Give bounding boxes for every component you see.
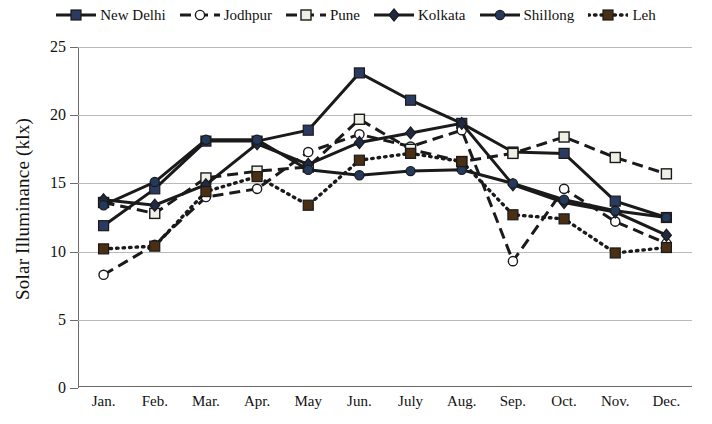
data-point-marker — [150, 241, 160, 251]
data-point-marker — [508, 257, 517, 266]
y-axis-tick-label: 15 — [50, 174, 66, 192]
data-point-marker — [99, 270, 108, 279]
chart-legend: New DelhiJodhpurPuneKolkataShillongLeh — [0, 0, 712, 30]
x-axis-tick-label: Dec. — [652, 393, 680, 410]
data-point-marker — [355, 171, 364, 180]
legend-swatch-icon — [588, 8, 628, 22]
data-point-marker — [303, 200, 313, 210]
series-shillong — [99, 135, 671, 222]
data-point-marker — [354, 136, 364, 148]
data-point-marker — [354, 68, 364, 78]
x-axis-tick-label: Sep. — [500, 393, 526, 410]
data-point-marker — [611, 206, 620, 215]
data-point-marker — [662, 213, 671, 222]
x-axis-tick-label: Feb. — [142, 393, 168, 410]
x-axis-tick-label: Mar. — [192, 393, 220, 410]
data-point-marker — [559, 195, 568, 204]
data-point-marker — [201, 187, 211, 197]
data-point-marker — [304, 147, 313, 156]
data-point-marker — [559, 148, 569, 158]
data-point-marker — [252, 184, 261, 193]
x-axis-tick-label: Nov. — [601, 393, 630, 410]
data-point-marker — [201, 135, 210, 144]
legend-label: Kolkata — [418, 8, 465, 23]
y-axis-tick-label: 0 — [58, 379, 66, 397]
y-axis-tick — [70, 252, 78, 253]
series-jodhpur — [99, 126, 671, 280]
data-point-marker — [508, 148, 518, 158]
data-point-marker — [508, 179, 517, 188]
legend-label: Jodhpur — [224, 8, 272, 23]
data-point-marker — [301, 10, 311, 20]
data-point-marker — [495, 10, 504, 19]
legend-item-leh[interactable]: Leh — [588, 8, 655, 23]
legend-label: Leh — [632, 8, 655, 23]
y-axis-tick — [70, 388, 78, 389]
data-point-marker — [406, 95, 416, 105]
data-point-marker — [406, 148, 416, 158]
legend-swatch-icon — [480, 8, 520, 22]
x-axis-tick-label: Jan. — [92, 393, 116, 410]
legend-item-shillong[interactable]: Shillong — [480, 8, 575, 23]
data-point-marker — [99, 201, 108, 210]
y-axis-tick — [70, 47, 78, 48]
data-point-marker — [610, 196, 620, 206]
legend-item-kolkata[interactable]: Kolkata — [374, 8, 465, 23]
x-axis-tick-label: July — [398, 393, 423, 410]
data-point-marker — [304, 165, 313, 174]
x-axis-tick-label: Jun. — [347, 393, 372, 410]
y-axis-title: Solar Illuminance (klx) — [12, 94, 34, 324]
data-point-marker — [252, 135, 261, 144]
data-point-marker — [661, 169, 671, 179]
data-point-marker — [610, 248, 620, 258]
axes: 0510152025 Jan.Feb.Mar.Apr.MayJun.JulyAu… — [78, 47, 692, 387]
chart-figure: New DelhiJodhpurPuneKolkataShillongLeh S… — [0, 0, 712, 424]
data-point-marker — [354, 114, 364, 124]
data-point-marker — [303, 125, 313, 135]
y-axis-tick — [70, 320, 78, 321]
legend-swatch-icon — [56, 8, 96, 22]
x-axis-tick-label: Aug. — [447, 393, 477, 410]
data-point-marker — [406, 127, 416, 139]
legend-item-pune[interactable]: Pune — [286, 8, 360, 23]
data-point-marker — [150, 177, 159, 186]
data-point-marker — [195, 10, 204, 19]
data-point-marker — [559, 214, 569, 224]
data-point-marker — [252, 172, 262, 182]
legend-swatch-icon — [374, 8, 414, 22]
series-kolkata — [99, 117, 672, 241]
legend-swatch-icon — [180, 8, 220, 22]
data-point-marker — [406, 167, 415, 176]
legend-item-jodhpur[interactable]: Jodhpur — [180, 8, 272, 23]
data-point-marker — [71, 10, 81, 20]
legend-label: Shillong — [524, 8, 575, 23]
data-point-marker — [661, 229, 671, 241]
data-point-marker — [610, 152, 620, 162]
y-axis-tick-label: 10 — [50, 243, 66, 261]
y-axis-tick-label: 25 — [50, 38, 66, 56]
data-point-marker — [99, 221, 109, 231]
data-point-marker — [603, 10, 613, 20]
data-point-marker — [99, 244, 109, 254]
legend-swatch-icon — [286, 8, 326, 22]
y-axis-tick-label: 5 — [58, 311, 66, 329]
y-axis-tick — [70, 115, 78, 116]
data-point-marker — [389, 9, 399, 21]
data-point-marker — [354, 155, 364, 165]
y-axis-tick-label: 20 — [50, 106, 66, 124]
data-point-marker — [508, 210, 518, 220]
data-point-marker — [457, 157, 467, 167]
series-lines — [78, 47, 692, 388]
x-axis-tick-label: Oct. — [551, 393, 576, 410]
series-pune — [99, 114, 672, 218]
legend-label: New Delhi — [100, 8, 165, 23]
data-point-marker — [559, 132, 569, 142]
y-axis-tick — [70, 183, 78, 184]
data-point-marker — [661, 243, 671, 253]
x-axis-tick-label: Apr. — [244, 393, 270, 410]
data-point-marker — [559, 184, 568, 193]
plot-area: Solar Illuminance (klx) 0510152025 Jan.F… — [0, 30, 712, 424]
legend-item-new-delhi[interactable]: New Delhi — [56, 8, 165, 23]
legend-label: Pune — [330, 8, 360, 23]
x-axis-tick-label: May — [295, 393, 323, 410]
